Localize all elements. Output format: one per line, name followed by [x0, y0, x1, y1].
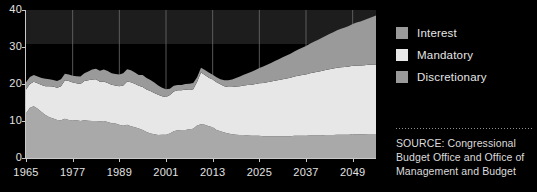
- legend-swatch-icon: [396, 27, 408, 39]
- legend-label: Discretionary: [417, 71, 487, 84]
- legend-item-interest[interactable]: Interest: [396, 22, 531, 44]
- source-divider: [396, 128, 534, 129]
- x-tick-label: 2037: [286, 166, 326, 178]
- y-tick-label: 20: [2, 78, 22, 89]
- x-tick-mark: [166, 158, 167, 162]
- legend-swatch-icon: [396, 49, 408, 61]
- x-tick-label: 1965: [6, 166, 46, 178]
- x-tick-mark: [306, 158, 307, 162]
- y-tick-label: 30: [2, 41, 22, 52]
- x-tick-label: 2013: [193, 166, 233, 178]
- legend-label: Mandatory: [417, 49, 473, 62]
- x-tick-label: 2001: [146, 166, 186, 178]
- x-axis-line: [25, 158, 376, 159]
- y-axis: 010203040: [0, 0, 22, 192]
- y-tick-label: 40: [2, 4, 22, 15]
- legend-item-discretionary[interactable]: Discretionary: [396, 66, 531, 88]
- x-tick-mark: [213, 158, 214, 162]
- x-tick-label: 2025: [239, 166, 279, 178]
- plot-area: [26, 10, 376, 158]
- source-note: SOURCE: Congressional Budget Office and …: [396, 136, 536, 178]
- x-tick-mark: [73, 158, 74, 162]
- x-tick-mark: [119, 158, 120, 162]
- x-tick-mark: [26, 158, 27, 162]
- x-tick-label: 2049: [333, 166, 373, 178]
- chart-legend: InterestMandatoryDiscretionary: [396, 22, 531, 88]
- legend-item-mandatory[interactable]: Mandatory: [396, 44, 531, 66]
- y-tick-label: 0: [2, 152, 22, 163]
- legend-swatch-icon: [396, 71, 408, 83]
- chart-screenshot: 010203040 196519771989200120132025203720…: [0, 0, 537, 192]
- x-tick-label: 1989: [99, 166, 139, 178]
- x-tick-mark: [353, 158, 354, 162]
- chart-panel: 010203040 196519771989200120132025203720…: [0, 0, 390, 192]
- x-tick-label: 1977: [53, 166, 93, 178]
- y-tick-label: 10: [2, 115, 22, 126]
- stacked-area-chart: [26, 10, 376, 158]
- x-tick-mark: [259, 158, 260, 162]
- legend-label: Interest: [417, 27, 457, 40]
